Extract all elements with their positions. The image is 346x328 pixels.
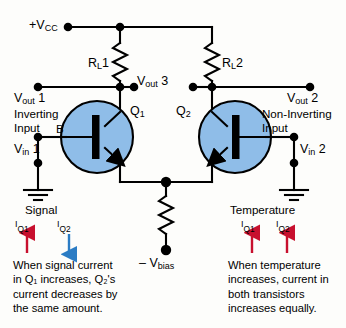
vout1-terminal-dot (34, 83, 43, 92)
resistor-rl2-body (205, 43, 219, 81)
vout3-terminal-dot-right (189, 83, 198, 92)
vout2-terminal-dot (306, 83, 315, 92)
right-annotation-text: When temperature increases, current in b… (228, 258, 346, 315)
non-inverting-input-label: Non-Inverting (262, 107, 332, 120)
vout2-label: Vout 2 (287, 91, 318, 106)
inverting-input-label: Inverting (14, 107, 58, 120)
vin1-label: Vin 1 (14, 142, 40, 157)
vin1-ground-node-dot (34, 159, 43, 168)
vout1-label: Vout 1 (14, 91, 45, 106)
right-annotation-heading: Temperature (230, 203, 295, 216)
right-iq1-label: IQ1 (241, 219, 255, 235)
q2-base-bar (232, 115, 240, 159)
vout3-label: Vout 3 (137, 74, 168, 89)
inverting-input-label-line2: Input (14, 121, 40, 134)
q2-label: Q2 (176, 104, 191, 119)
non-inverting-input-label-line2: Input (262, 121, 288, 134)
vbias-terminal-dot (161, 245, 171, 255)
left-annotation-heading: Signal (25, 203, 57, 216)
right-iq2-label: IQ2 (276, 219, 290, 235)
left-annotation-text: When signal current in Q₁ increases, Q₂'… (13, 258, 148, 315)
vin2-label: Vin 2 (300, 142, 326, 157)
vin2-terminal-dot (290, 133, 299, 142)
vin2-ground-node-dot (290, 159, 299, 168)
left-iq2-label: IQ2 (57, 219, 71, 235)
left-current-arrows (27, 234, 69, 253)
vcc-terminal-dot (64, 23, 73, 32)
resistor-rl1-body (113, 43, 127, 81)
right-annotation-line-1: When temperature (228, 258, 346, 272)
q2-collector-node-dot (208, 83, 217, 92)
left-annotation-line-4: the same amount. (13, 301, 148, 315)
vcc-rl1-node-dot (116, 23, 125, 32)
right-annotation-line-3: both transistors (228, 287, 346, 301)
left-annotation-line-1: When signal current (13, 258, 148, 272)
resistor-rl1-label: RL1 (88, 56, 109, 71)
q1-base-bar (92, 115, 100, 159)
left-annotation-line-2: in Q₁ increases, Q₂'s (13, 272, 148, 286)
emitter-common-node-dot (161, 177, 171, 187)
left-annotation-line-3: current decreases by (13, 287, 148, 301)
q1-collector-node-dot (116, 83, 125, 92)
base-terminal-label: B (56, 122, 64, 135)
circuit-diagram-figure: +VCC RL1 RL2 Vout 1 Vout 3 Vout 2 Invert… (0, 0, 346, 328)
right-annotation-line-4: increases equally. (228, 301, 346, 315)
q1-label: Q1 (130, 104, 145, 119)
left-iq1-label: IQ1 (15, 219, 29, 235)
right-current-arrows (252, 234, 287, 253)
resistor-rl2-label: RL2 (222, 56, 243, 71)
vcc-label: +VCC (29, 18, 58, 33)
bias-resistor-body (159, 196, 173, 234)
right-annotation-line-2: increases, current in (228, 272, 346, 286)
